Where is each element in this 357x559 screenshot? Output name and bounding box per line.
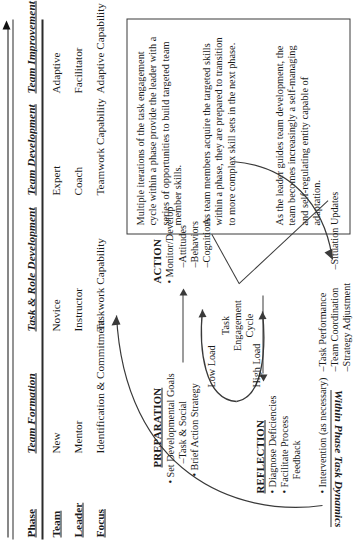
column-header-task-role-development: Task & Role Development: [24, 207, 36, 331]
row-header-phase: Phase: [24, 509, 36, 537]
intervention-feedback-arc: [228, 153, 340, 273]
cell-team-improvement-focus: Adaptive Capability: [93, 3, 105, 93]
column-header-team-formation: Team Formation: [24, 373, 36, 453]
matrix-header-rule: [41, 19, 43, 539]
progression-arrow-head-icon: [2, 20, 10, 29]
cell-team-development-leader: Coach: [71, 166, 83, 195]
action-title: ACTION: [150, 239, 162, 283]
cell-team-development-team: Expert: [49, 165, 61, 195]
phase-feedback-arc: [104, 281, 330, 511]
cell-task-role-leader: Instructor: [71, 288, 83, 332]
cell-team-improvement-leader: Facilitator: [71, 47, 83, 93]
column-header-team-improvement: Team Improvement: [24, 0, 36, 93]
rotated-figure-root: Team Formation Task & Role Development T…: [0, 0, 357, 559]
callout-paragraph-1: Multiple iterations of the task engageme…: [134, 29, 184, 225]
row-header-leader: Leader: [71, 502, 83, 537]
cell-team-formation-leader: Mentor: [71, 420, 83, 453]
cell-task-role-team: Novice: [49, 299, 61, 331]
action-bullet-1: • Monitor/Develop: [163, 206, 175, 283]
cell-team-development-focus: Teamwork Capability: [93, 98, 105, 195]
row-header-team: Team: [49, 510, 61, 537]
cell-task-role-focus: Taskwork Capability: [93, 238, 105, 331]
figure-canvas: Team Formation Task & Role Development T…: [0, 0, 357, 559]
cell-team-improvement-team: Adaptive: [49, 52, 61, 93]
cell-team-formation-team: New: [49, 432, 61, 453]
row-header-focus: Focus: [93, 509, 105, 537]
matrix-top-rule: [12, 19, 13, 539]
progression-arrow-line: [7, 27, 8, 537]
action-subitem-1: –Attitudes: [176, 225, 188, 267]
cell-team-formation-focus: Identification & Commitment: [93, 319, 105, 453]
column-header-team-development: Team Development: [24, 104, 36, 195]
intervention-subitem-3: –Strategy Adjustment: [340, 282, 352, 371]
within-phase-task-dynamics-label: Within Phase Task Dynamics: [330, 390, 344, 527]
